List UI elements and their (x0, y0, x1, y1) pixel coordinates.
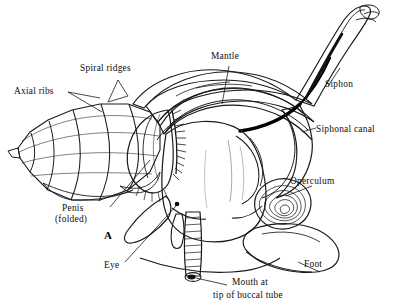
label-spiral-ridges: Spiral ridges (80, 63, 131, 74)
head-foot-mass (125, 121, 266, 248)
anatomy-line-drawing (0, 0, 394, 308)
label-mouth-line1: Mouth at (232, 277, 268, 288)
siphon (296, 5, 379, 106)
gastropod-anatomy-figure: Spiral ridges Axial ribs Mantle Siphon S… (0, 0, 394, 308)
leader-siphonal-canal (302, 128, 316, 132)
leader-spiral-ridges (108, 80, 128, 102)
body-whorl (133, 70, 308, 140)
label-eye: Eye (104, 260, 119, 271)
label-foot: Foot (304, 259, 322, 270)
label-siphon: Siphon (325, 79, 353, 90)
label-siphonal-canal: Siphonal canal (316, 124, 375, 135)
figure-marker-a: A (104, 229, 112, 241)
label-penis-line1: Penis (62, 203, 84, 214)
mouth (185, 273, 201, 282)
label-mantle: Mantle (211, 51, 239, 62)
mantle (146, 58, 330, 140)
label-axial-ribs: Axial ribs (14, 86, 54, 97)
leader-eye (125, 206, 176, 262)
label-mouth-line2: tip of buccal tube (213, 290, 283, 301)
label-operculum: Operculum (290, 176, 334, 187)
label-penis-line2: (folded) (55, 214, 87, 225)
shell-spire (8, 104, 160, 201)
eye (175, 202, 180, 207)
leader-mouth (196, 278, 227, 285)
